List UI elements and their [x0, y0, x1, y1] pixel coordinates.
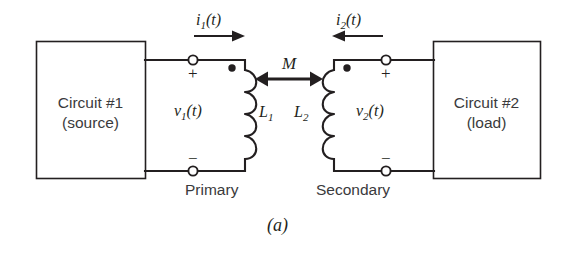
mutual-inductance-label: M	[282, 55, 296, 72]
inductor-L1-symbol: L	[259, 103, 268, 120]
inductor-L2-coil	[323, 70, 334, 159]
inductor-L1-subscript: 1	[268, 111, 274, 123]
inductor-L2-subscript: 2	[303, 111, 309, 123]
polarity-minus-primary: −	[188, 150, 198, 167]
inductor-L1-coil	[245, 70, 256, 159]
circuit-2-label: Circuit #2 (load)	[433, 93, 540, 134]
current-i2-label: i2(t)	[336, 12, 361, 31]
circuit-1-label: Circuit #1 (source)	[36, 93, 145, 134]
circuit-1-label-line1: Circuit #1	[36, 93, 145, 113]
secondary-winding-label: Secondary	[316, 182, 390, 198]
polarity-minus-secondary: −	[381, 150, 391, 167]
mutual-inductance-circuit-figure: Circuit #1 (source) Circuit #2 (load) i1…	[0, 0, 570, 255]
voltage-v1-argument: (t)	[187, 102, 202, 119]
circuit-1-label-line2: (source)	[36, 113, 145, 133]
inductor-L2-symbol: L	[294, 103, 303, 120]
current-i2-argument: (t)	[346, 11, 361, 28]
mutual-inductance-arrow	[255, 72, 323, 87]
circuit-2-label-line2: (load)	[433, 113, 540, 133]
voltage-v1-label: v1(t)	[174, 103, 202, 122]
primary-winding-label: Primary	[185, 182, 238, 198]
inductor-L2-label: L2	[294, 104, 308, 123]
current-i1-arrow	[194, 31, 245, 42]
polarity-plus-secondary: +	[381, 65, 391, 82]
voltage-v2-label: v2(t)	[356, 103, 384, 122]
inductor-L1-polarity-dot	[228, 64, 235, 71]
figure-caption: (a)	[267, 216, 288, 234]
current-i2-arrow	[332, 31, 383, 42]
circuit-2-label-line1: Circuit #2	[433, 93, 540, 113]
inductor-L1-label: L1	[259, 104, 273, 123]
current-i1-label: i1(t)	[196, 12, 221, 31]
voltage-v2-argument: (t)	[369, 102, 384, 119]
polarity-plus-primary: +	[188, 65, 198, 82]
current-i1-argument: (t)	[206, 11, 221, 28]
inductor-L2-polarity-dot	[343, 64, 350, 71]
